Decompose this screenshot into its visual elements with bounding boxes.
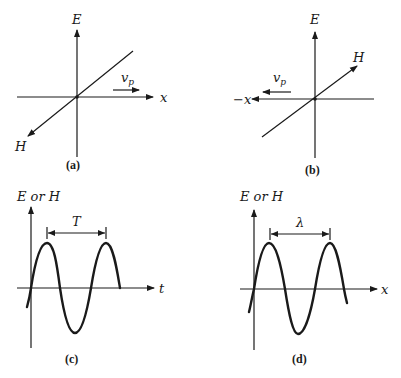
caption-b: (b): [305, 163, 320, 177]
wavelength-label: λ: [295, 215, 304, 230]
e-or-h-label: E or H: [239, 189, 284, 204]
vp-label: vp: [273, 70, 286, 87]
h-label: H: [14, 139, 27, 154]
period-label: T: [72, 214, 82, 229]
vp-label: vp: [121, 70, 134, 87]
e-or-h-label: E or H: [16, 189, 61, 204]
caption-c: (c): [65, 352, 78, 366]
x-label: x: [381, 282, 389, 297]
h-axis: [28, 51, 133, 136]
neg-x-label: −x: [233, 92, 252, 107]
wave-figure: E x H vp (a) E −x H vp (b) T t E or H (c…: [0, 0, 401, 378]
caption-d: (d): [292, 352, 307, 366]
panel-a: E x H vp (a): [14, 12, 168, 172]
panel-b: E −x H vp (b): [233, 12, 374, 177]
origin-dot: [313, 97, 317, 101]
e-label: E: [71, 12, 82, 27]
t-label: t: [159, 281, 165, 296]
e-label: E: [309, 12, 320, 27]
origin-dot: [75, 95, 79, 99]
caption-a: (a): [66, 158, 80, 172]
x-label: x: [160, 90, 168, 105]
h-label: H: [352, 50, 365, 65]
panel-c: T t E or H (c): [16, 189, 165, 366]
panel-d: λ x E or H (d): [239, 189, 389, 366]
